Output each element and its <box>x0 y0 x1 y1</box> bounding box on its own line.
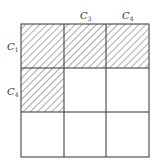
column-label-c4: C4 <box>122 10 134 22</box>
row-label-c4: C4 <box>7 86 19 98</box>
column-label-c3: C3 <box>80 10 92 22</box>
grid-diagram: C3 C4 C1 C4 <box>0 0 156 166</box>
hatched-cell-r0c1 <box>64 24 106 68</box>
hatched-cell-r0c0 <box>21 24 64 68</box>
hatched-cell-r0c2 <box>106 24 149 68</box>
row-label-c1: C1 <box>7 41 18 53</box>
hatched-cell-r1c0 <box>21 68 64 112</box>
